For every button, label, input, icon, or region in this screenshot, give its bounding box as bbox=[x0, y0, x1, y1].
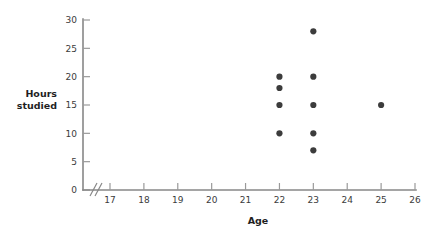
x-tick-label: 24 bbox=[341, 195, 353, 205]
y-tick-label: 20 bbox=[66, 72, 78, 82]
y-axis-title-line-1: Hours bbox=[25, 88, 57, 99]
y-tick-label: 0 bbox=[71, 185, 77, 195]
x-tick-label: 20 bbox=[206, 195, 218, 205]
data-point bbox=[310, 28, 316, 34]
data-point bbox=[310, 74, 316, 80]
x-tick-label: 17 bbox=[104, 195, 115, 205]
data-point bbox=[310, 102, 316, 108]
x-tick-label: 19 bbox=[172, 195, 184, 205]
data-point bbox=[310, 130, 316, 136]
x-tick-label: 23 bbox=[308, 195, 319, 205]
x-tick-label: 25 bbox=[375, 195, 386, 205]
x-tick-label: 21 bbox=[240, 195, 251, 205]
data-point bbox=[276, 74, 282, 80]
y-tick-label: 25 bbox=[66, 44, 77, 54]
y-tick-label: 10 bbox=[66, 129, 78, 139]
y-tick-label: 30 bbox=[66, 15, 78, 25]
data-point bbox=[378, 102, 384, 108]
y-tick-label: 5 bbox=[71, 157, 77, 167]
data-point bbox=[276, 85, 282, 91]
y-tick-label: 15 bbox=[66, 100, 77, 110]
chart-canvas: 051015202530 17181920212223242526 Age Ho… bbox=[0, 0, 444, 235]
x-tick-label: 22 bbox=[274, 195, 285, 205]
data-point bbox=[310, 147, 316, 153]
data-point bbox=[276, 130, 282, 136]
scatter-plot-figure: 051015202530 17181920212223242526 Age Ho… bbox=[0, 0, 444, 235]
x-axis-title: Age bbox=[248, 215, 269, 226]
data-point bbox=[276, 102, 282, 108]
x-tick-label: 26 bbox=[409, 195, 421, 205]
x-tick-label: 18 bbox=[138, 195, 150, 205]
y-axis-title-line-2: studied bbox=[17, 100, 57, 111]
